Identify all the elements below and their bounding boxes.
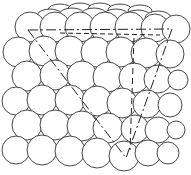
crystal-diagram [0,0,191,175]
spheres [2,3,190,171]
sphere-packing-figure [0,0,191,175]
